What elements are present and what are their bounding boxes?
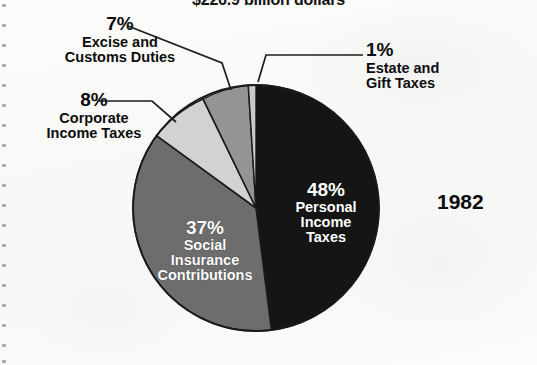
callout-percent-excise: 7% <box>30 14 210 34</box>
slice-percent-social: 37% <box>142 218 268 237</box>
slice-name-social-line3: Contributions <box>142 268 268 283</box>
slice-percent-personal: 48% <box>268 180 384 199</box>
callout-percent-corporate: 8% <box>6 90 182 110</box>
leader-line-estate <box>258 55 363 82</box>
slice-name-personal-line2: Income <box>268 215 384 230</box>
callout-name-excise-line1: Excise and <box>30 35 210 50</box>
slice-name-social-line1: Social <box>142 238 268 253</box>
slice-name-personal-line3: Taxes <box>268 230 384 245</box>
pie-chart-page: $226.9 billion dollars 48% Personal Inco… <box>0 0 537 365</box>
callout-name-corporate-line1: Corporate <box>6 111 182 126</box>
callout-excise-and-customs-duties: 7% Excise and Customs Duties <box>30 14 210 65</box>
callout-name-estate-line2: Gift Taxes <box>366 76 486 91</box>
callout-corporate-income-taxes: 8% Corporate Income Taxes <box>6 90 182 141</box>
scan-edge-dots <box>2 0 8 365</box>
callout-name-estate-line1: Estate and <box>366 61 486 76</box>
callout-name-excise-line2: Customs Duties <box>30 50 210 65</box>
chart-title: $226.9 billion dollars <box>0 0 537 9</box>
year-label: 1982 <box>437 190 484 214</box>
callout-estate-and-gift-taxes: 1% Estate and Gift Taxes <box>366 40 486 91</box>
callout-name-corporate-line2: Income Taxes <box>6 126 182 141</box>
slice-name-personal-line1: Personal <box>268 200 384 215</box>
callout-percent-estate: 1% <box>366 40 486 60</box>
slice-label-personal-income-taxes: 48% Personal Income Taxes <box>268 180 384 245</box>
slice-name-social-line2: Insurance <box>142 253 268 268</box>
slice-label-social-insurance-contributions: 37% Social Insurance Contributions <box>142 218 268 283</box>
